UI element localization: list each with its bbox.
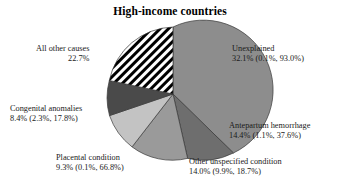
slice-label-unexplained-name: Unexplained — [232, 44, 304, 54]
slice-label-all-other-causes-value: 22.7% — [36, 54, 89, 64]
slice-label-all-other-causes: All other causes 22.7% — [36, 44, 89, 64]
slice-label-all-other-causes-name: All other causes — [36, 44, 89, 54]
slice-label-placental-condition-value: 9.3% (0.1%, 66.8%) — [56, 163, 124, 173]
slice-label-unexplained: Unexplained 32.1% (0.1%, 93.0%) — [232, 44, 304, 64]
slice-label-unexplained-value: 32.1% (0.1%, 93.0%) — [232, 54, 304, 64]
pie-chart-svg — [0, 0, 340, 189]
slice-label-placental-condition: Placental condition 9.3% (0.1%, 66.8%) — [56, 153, 124, 173]
slice-label-congenital-anomalies-value: 8.4% (2.3%, 17.8%) — [10, 114, 82, 124]
slice-label-congenital-anomalies-name: Congenital anomalies — [10, 104, 82, 114]
slice-label-antepartum-hemorrhage: Antepartum hemorrhage 14.4% (1.1%, 37.6%… — [229, 121, 310, 141]
slice-label-other-unspecified-condition-value: 14.0% (9.9%, 18.7%) — [189, 167, 282, 177]
slice-label-other-unspecified-condition-name: Other unspecified condition — [189, 157, 282, 167]
pie-chart-figure: High-income countries Unexplained 32.1% … — [0, 0, 340, 189]
slice-label-antepartum-hemorrhage-name: Antepartum hemorrhage — [229, 121, 310, 131]
slice-label-antepartum-hemorrhage-value: 14.4% (1.1%, 37.6%) — [229, 131, 310, 141]
slice-label-placental-condition-name: Placental condition — [56, 153, 124, 163]
slice-label-congenital-anomalies: Congenital anomalies 8.4% (2.3%, 17.8%) — [10, 104, 82, 124]
slice-label-other-unspecified-condition: Other unspecified condition 14.0% (9.9%,… — [189, 157, 282, 177]
